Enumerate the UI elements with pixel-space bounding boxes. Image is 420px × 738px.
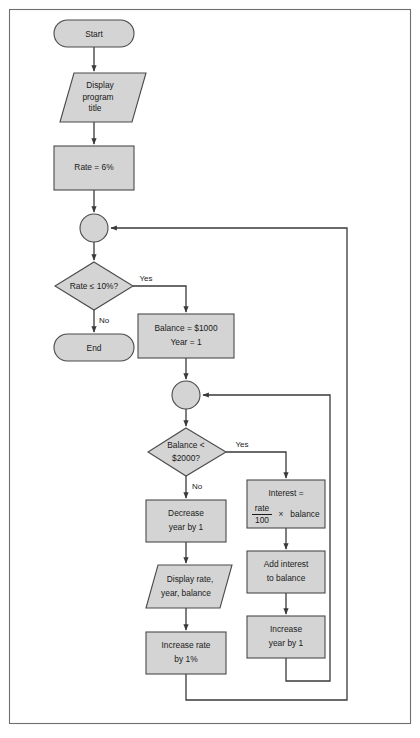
display-results-line1: Display rate, bbox=[167, 574, 214, 584]
interest-numerator: rate bbox=[255, 503, 270, 513]
display-title-line2: program bbox=[82, 92, 113, 102]
node-start[interactable]: Start bbox=[54, 20, 134, 47]
decrease-year-shape bbox=[146, 500, 226, 542]
node-balance-decision[interactable]: Balance < $2000? bbox=[148, 428, 226, 476]
node-display-results[interactable]: Display rate, year, balance bbox=[146, 565, 232, 608]
display-title-line3: title bbox=[88, 103, 101, 113]
interest-operand: balance bbox=[290, 509, 320, 519]
add-interest-line2: to balance bbox=[267, 573, 306, 583]
add-interest-line1: Add interest bbox=[264, 559, 309, 569]
set-rate-label: Rate = 6% bbox=[74, 162, 114, 172]
increase-year-line2: year by 1 bbox=[269, 638, 304, 648]
increase-rate-shape bbox=[146, 632, 226, 674]
edge-label-rate-no: No bbox=[99, 316, 110, 325]
decrease-year-line1: Decrease bbox=[168, 508, 204, 518]
node-inner-join[interactable] bbox=[172, 381, 200, 409]
interest-operator: × bbox=[279, 509, 284, 519]
decrease-year-line2: year by 1 bbox=[169, 522, 204, 532]
node-rate-decision[interactable]: Rate ≤ 10%? bbox=[55, 262, 133, 310]
inner-join-shape bbox=[172, 381, 200, 409]
node-increase-year[interactable]: Increase year by 1 bbox=[247, 616, 325, 658]
balance-decision-line1: Balance < bbox=[167, 440, 205, 450]
node-increase-rate[interactable]: Increase rate by 1% bbox=[146, 632, 226, 674]
node-display-title[interactable]: Display program title bbox=[60, 73, 146, 122]
display-title-line1: Display bbox=[86, 80, 114, 90]
node-add-interest[interactable]: Add interest to balance bbox=[247, 551, 325, 593]
init-balance-line1: Balance = $1000 bbox=[154, 323, 217, 333]
flowchart-canvas: Start Display program title Rate = 6% Ra… bbox=[0, 0, 420, 738]
node-outer-join[interactable] bbox=[80, 214, 108, 242]
node-init-balance[interactable]: Balance = $1000 Year = 1 bbox=[138, 314, 234, 358]
node-end[interactable]: End bbox=[54, 334, 134, 361]
edge-label-balance-no: No bbox=[192, 482, 203, 491]
interest-denominator: 100 bbox=[255, 515, 269, 525]
node-set-rate[interactable]: Rate = 6% bbox=[54, 146, 134, 190]
display-results-shape bbox=[146, 565, 232, 608]
init-balance-shape bbox=[138, 314, 234, 358]
increase-year-shape bbox=[247, 616, 325, 658]
edge-balance-decision-yes-to-interest bbox=[226, 452, 286, 478]
increase-rate-line2: by 1% bbox=[174, 654, 198, 664]
increase-rate-line1: Increase rate bbox=[162, 640, 211, 650]
interest-line1: Interest = bbox=[268, 488, 303, 498]
edge-label-balance-yes: Yes bbox=[235, 440, 248, 449]
node-interest[interactable]: Interest = rate 100 × balance bbox=[247, 480, 325, 528]
end-label: End bbox=[87, 343, 102, 353]
add-interest-shape bbox=[247, 551, 325, 593]
outer-join-shape bbox=[80, 214, 108, 242]
balance-decision-shape bbox=[148, 428, 226, 476]
rate-decision-label: Rate ≤ 10%? bbox=[70, 281, 119, 291]
start-label: Start bbox=[85, 29, 103, 39]
balance-decision-line2: $2000? bbox=[172, 453, 200, 463]
flowchart-figure: Start Display program title Rate = 6% Ra… bbox=[0, 0, 420, 738]
init-balance-line2: Year = 1 bbox=[170, 337, 201, 347]
node-decrease-year[interactable]: Decrease year by 1 bbox=[146, 500, 226, 542]
display-results-line2: year, balance bbox=[161, 588, 211, 598]
edge-label-rate-yes: Yes bbox=[139, 274, 152, 283]
increase-year-line1: Increase bbox=[270, 624, 302, 634]
edge-rate-decision-yes-to-init-balance bbox=[133, 286, 186, 312]
